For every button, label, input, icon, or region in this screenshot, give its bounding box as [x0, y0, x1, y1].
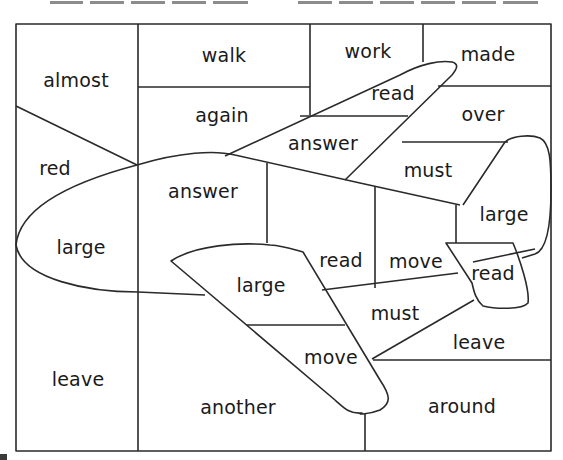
- region-leave-2[interactable]: leave: [52, 368, 105, 390]
- region-work[interactable]: work: [345, 40, 392, 62]
- region-answer-2[interactable]: answer: [168, 180, 238, 202]
- region-read-3[interactable]: read: [471, 262, 515, 284]
- region-answer-1[interactable]: answer: [288, 132, 358, 154]
- airplane-tail-fin: [463, 136, 551, 258]
- region-another[interactable]: another: [200, 396, 276, 418]
- region-around[interactable]: around: [428, 395, 496, 417]
- region-large-2[interactable]: large: [56, 236, 105, 258]
- region-large-1[interactable]: large: [479, 203, 528, 225]
- region-again[interactable]: again: [195, 104, 249, 126]
- region-read-2[interactable]: read: [319, 249, 363, 271]
- region-leave-1[interactable]: leave: [453, 331, 506, 353]
- region-large-3[interactable]: large: [236, 274, 285, 296]
- region-read-1[interactable]: read: [371, 82, 415, 104]
- region-must-2[interactable]: must: [371, 302, 420, 324]
- region-over[interactable]: over: [461, 103, 504, 125]
- region-made[interactable]: made: [461, 43, 516, 65]
- region-red[interactable]: red: [39, 157, 71, 179]
- region-walk[interactable]: walk: [202, 44, 246, 66]
- region-must-1[interactable]: must: [404, 159, 453, 181]
- region-move-2[interactable]: move: [304, 346, 358, 368]
- region-almost[interactable]: almost: [43, 69, 109, 91]
- corner-mark: [0, 454, 7, 460]
- region-move-1[interactable]: move: [389, 250, 443, 272]
